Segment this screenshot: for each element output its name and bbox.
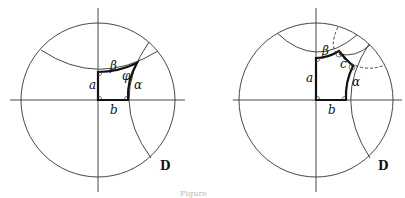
disk-label: D (160, 159, 170, 173)
label-alpha: α (134, 78, 142, 92)
label-a: a (89, 78, 96, 92)
label-alpha: α (352, 75, 360, 89)
disk-label: D (378, 159, 388, 173)
label-c: c (340, 57, 347, 71)
beta-geodesic (41, 50, 158, 69)
right-figure: β c a b α D (233, 8, 402, 192)
label-phi: φ (122, 69, 131, 83)
dashed-geodesic (333, 27, 339, 54)
beta-geodesic (277, 33, 357, 52)
label-b: b (110, 103, 118, 117)
label-a: a (306, 71, 313, 85)
label-beta: β (109, 59, 117, 73)
left-figure: β φ a b α D (10, 8, 185, 192)
right-angled-pentagon (316, 51, 353, 100)
label-b: b (328, 103, 336, 117)
figure-caption: Figure (180, 189, 207, 198)
alpha-geodesic (351, 44, 370, 158)
diagram-canvas: β φ a b α D β c a b α D Figure (0, 0, 405, 198)
label-beta: β (321, 44, 329, 58)
